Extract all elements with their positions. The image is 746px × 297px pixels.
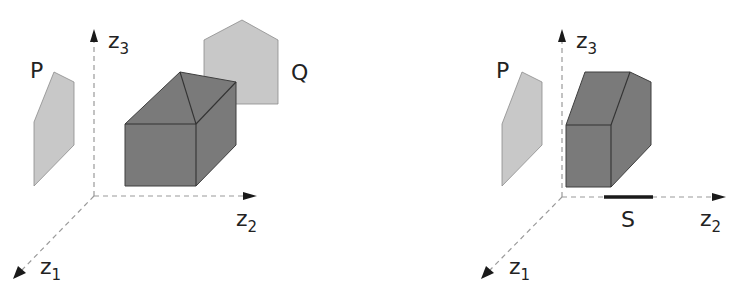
z1-label: z1 [40, 254, 61, 284]
projection-p [502, 72, 542, 186]
z3-arrow-icon [558, 29, 566, 42]
z1-label: z1 [509, 254, 530, 284]
z2-arrow-icon [712, 193, 726, 201]
diagram-canvas: z3 P Q z2 z1 z3 P S z2 z1 [0, 0, 746, 297]
z3-label: z3 [576, 28, 597, 58]
p-label: P [30, 58, 43, 83]
q-label: Q [291, 60, 308, 85]
z3-arrow-icon [90, 29, 98, 42]
z1-axis [22, 196, 94, 270]
z2-arrow-icon [243, 192, 257, 200]
s-label: S [621, 207, 635, 232]
prism-solid [566, 72, 651, 187]
z1-axis [490, 197, 562, 270]
left-panel: z3 P Q z2 z1 [13, 20, 308, 284]
right-panel: z3 P S z2 z1 [481, 28, 726, 284]
z2-label: z2 [236, 206, 257, 236]
z2-label: z2 [700, 206, 721, 236]
p-label: P [496, 58, 509, 83]
house-solid [125, 72, 236, 186]
z3-label: z3 [108, 28, 129, 58]
projection-p [34, 72, 74, 186]
